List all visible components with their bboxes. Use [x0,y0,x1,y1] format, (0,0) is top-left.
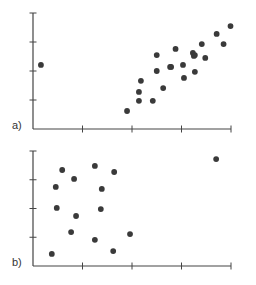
data-point [154,68,160,74]
scatter-plot-a: a) [0,0,256,140]
data-point [54,205,60,211]
data-point [92,237,98,243]
scatter-plot-a-canvas [0,0,256,140]
scatter-plot-b: b) [0,140,256,285]
data-point [111,169,117,175]
data-point [214,31,220,37]
data-point [136,89,142,95]
data-point [199,41,205,47]
data-point [92,163,98,169]
data-point [221,41,227,47]
data-point [228,23,234,29]
data-point [53,184,59,190]
data-point [181,75,187,81]
panel-label-b: b) [12,256,22,268]
data-point [71,176,77,182]
data-point [150,98,156,104]
data-point [192,69,198,75]
scatter-plot-b-canvas [0,140,256,285]
data-point [99,186,105,192]
data-point [154,52,160,58]
data-point [213,156,219,162]
data-point [59,167,65,173]
data-point [180,62,186,68]
data-point [160,85,166,91]
data-point [68,229,74,235]
data-point [98,206,104,212]
data-point [202,55,208,61]
panel-label-a: a) [12,119,22,131]
data-point [168,64,174,70]
data-point [73,213,79,219]
data-point [173,46,179,52]
data-point [136,98,142,104]
data-point [138,78,144,84]
data-point [192,52,198,58]
data-point [124,108,130,114]
data-point [49,251,55,257]
data-point [110,248,116,254]
data-point [38,62,44,68]
data-point [127,231,133,237]
